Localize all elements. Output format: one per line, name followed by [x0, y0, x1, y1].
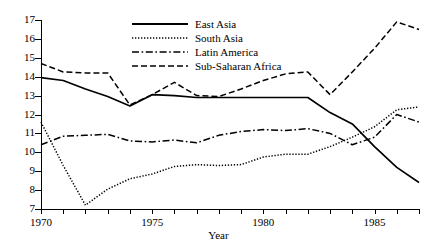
chart-legend: East AsiaSouth AsiaLatin AmericaSub-Saha…	[132, 17, 322, 73]
x-axis-tick	[197, 209, 198, 214]
x-axis-tick	[63, 209, 64, 214]
x-axis-tick	[219, 209, 220, 214]
x-axis-tick	[85, 209, 86, 214]
y-axis-tick-label: 16	[5, 33, 35, 44]
legend-item-latin-america: Latin America	[132, 45, 322, 59]
x-axis-tick	[308, 209, 309, 214]
legend-line-sample	[132, 32, 188, 44]
y-axis-tick-label: 11	[5, 127, 35, 138]
x-axis-tick	[241, 209, 242, 214]
series-line-latin-america	[41, 115, 419, 145]
x-axis-tick	[108, 209, 109, 214]
y-axis-tick-label: 12	[5, 109, 35, 120]
legend-line-sample	[132, 46, 188, 58]
legend-label: South Asia	[195, 32, 243, 44]
legend-label: Sub-Saharan Africa	[195, 60, 281, 72]
x-axis-tick-label: 1985	[352, 216, 398, 228]
x-axis-tick	[330, 209, 331, 214]
x-axis-tick	[41, 209, 42, 214]
x-axis-tick	[375, 209, 376, 214]
legend-item-east-asia: East Asia	[132, 17, 322, 31]
x-axis-tick	[130, 209, 131, 214]
legend-item-south-asia: South Asia	[132, 31, 322, 45]
legend-line-sample	[132, 18, 188, 30]
x-axis-tick	[152, 209, 153, 214]
legend-label: East Asia	[195, 18, 236, 30]
x-axis-tick	[174, 209, 175, 214]
y-axis-tick-label: 14	[5, 71, 35, 82]
y-axis-tick-label: 13	[5, 90, 35, 101]
x-axis-tick-label: 1970	[18, 216, 64, 228]
line-chart: 7891011121314151617 1970197519801985 Eas…	[0, 0, 437, 247]
legend-line-sample	[132, 60, 188, 72]
x-axis-tick	[286, 209, 287, 214]
y-axis-tick-label: 8	[5, 184, 35, 195]
x-axis-line	[41, 209, 419, 210]
x-axis-tick	[352, 209, 353, 214]
y-axis-tick-label: 7	[5, 203, 35, 214]
legend-item-sub-saharan-africa: Sub-Saharan Africa	[132, 59, 322, 73]
y-axis-tick-label: 15	[5, 52, 35, 63]
x-axis-tick-label: 1975	[129, 216, 175, 228]
y-axis-tick-label: 10	[5, 146, 35, 157]
series-line-south-asia	[41, 107, 419, 205]
y-axis-tick-label: 9	[5, 165, 35, 176]
x-axis-tick	[419, 209, 420, 214]
x-axis-tick	[397, 209, 398, 214]
x-axis-title: Year	[0, 229, 437, 241]
x-axis-tick-label: 1980	[240, 216, 286, 228]
x-axis-tick	[263, 209, 264, 214]
legend-label: Latin America	[195, 46, 258, 58]
y-axis-tick-label: 17	[5, 14, 35, 25]
